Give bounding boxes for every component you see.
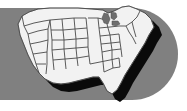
banner-canvas <box>0 0 187 111</box>
us-map-graphic <box>0 0 187 111</box>
